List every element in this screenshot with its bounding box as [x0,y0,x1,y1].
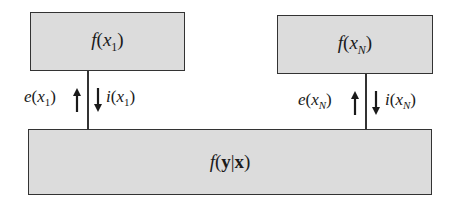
factor-box-xN: f(xN) [277,15,433,74]
arrow-up-icon [350,91,360,115]
factor-box-x1: f(x1) [30,12,185,71]
message-e-x1: e(x1) [24,87,56,108]
message-i-x1: i(x1) [106,87,135,108]
arrow-up-icon [72,88,82,112]
edge-line-xN [365,73,367,130]
likelihood-box: f(y|x) [28,129,432,195]
factor-label-xN: f(xN) [338,32,372,58]
arrow-down-icon [93,88,103,112]
edge-line-x1 [87,70,89,130]
arrow-down-icon [371,91,381,115]
message-e-xN: e(xN) [298,90,332,111]
message-i-xN: i(xN) [385,90,416,111]
likelihood-label: f(y|x) [210,151,251,173]
factor-label-x1: f(x1) [91,29,123,55]
